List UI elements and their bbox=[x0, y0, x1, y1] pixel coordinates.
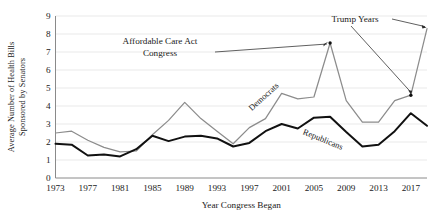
y-tick-labels: 0123456789 bbox=[46, 11, 51, 183]
x-axis-title: Year Congress Began bbox=[202, 200, 282, 210]
annotation-aca-line2: Congress bbox=[143, 48, 178, 58]
y-tick-label: 2 bbox=[46, 137, 51, 147]
y-tick-label: 0 bbox=[46, 173, 51, 183]
x-tick-labels: 1973197719811985198919931997200120052009… bbox=[46, 183, 420, 193]
x-tick-label: 1985 bbox=[143, 183, 162, 193]
y-tick-label: 7 bbox=[46, 47, 51, 57]
y-tick-label: 5 bbox=[46, 83, 51, 93]
x-tick-label: 2009 bbox=[337, 183, 356, 193]
x-tick-label: 1989 bbox=[176, 183, 195, 193]
chart-container: 0123456789 19731977198119851989199319972… bbox=[0, 0, 436, 218]
y-tick-label: 8 bbox=[46, 29, 51, 39]
y-tick-label: 3 bbox=[46, 119, 51, 129]
y-tick-label: 4 bbox=[46, 101, 51, 111]
y-tick-label: 9 bbox=[46, 11, 51, 21]
data-point-aca bbox=[328, 41, 331, 44]
annotation-trump-years: Trump Years bbox=[331, 14, 379, 24]
annotation-trump-leader-2019 bbox=[392, 19, 425, 27]
x-tick-label: 1973 bbox=[46, 183, 65, 193]
y-axis-title-line2: Sponsored by Senators bbox=[18, 58, 27, 136]
x-tick-label: 1977 bbox=[79, 183, 98, 193]
x-tick-label: 2001 bbox=[272, 183, 291, 193]
y-tick-label: 1 bbox=[46, 155, 51, 165]
y-tick-label: 6 bbox=[46, 65, 51, 75]
series-line-democrats bbox=[56, 29, 428, 152]
x-tick-label: 2013 bbox=[369, 183, 388, 193]
x-tick-label: 2005 bbox=[305, 183, 324, 193]
series-label-republicans: Republicans bbox=[302, 127, 346, 152]
annotation-aca-line1: Affordable Care Act bbox=[123, 36, 198, 46]
x-tick-label: 2017 bbox=[402, 183, 421, 193]
annotation-aca-leader bbox=[215, 44, 327, 52]
x-tick-label: 1993 bbox=[208, 183, 227, 193]
annotation-trump-leader-2017 bbox=[351, 26, 411, 92]
y-axis-title-line1: Average Number of Health Bills bbox=[7, 42, 16, 153]
annotation-aca-arrowhead bbox=[324, 42, 329, 47]
x-tick-label: 1997 bbox=[240, 183, 259, 193]
series-label-democrats: Democrats bbox=[246, 80, 281, 113]
annotation-trump-arrowhead-2019 bbox=[422, 25, 427, 28]
x-tick-label: 1981 bbox=[111, 183, 130, 193]
data-point-2017 bbox=[409, 94, 412, 97]
health-bills-line-chart: 0123456789 19731977198119851989199319972… bbox=[0, 0, 436, 218]
gridlines bbox=[56, 16, 428, 160]
series-lines bbox=[56, 29, 428, 157]
